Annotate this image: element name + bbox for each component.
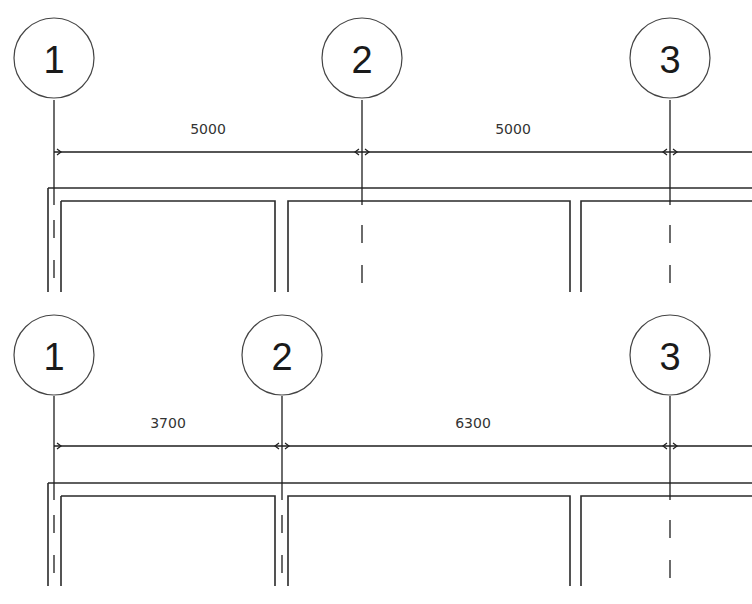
- dimension-value[interactable]: 5000: [190, 121, 226, 137]
- grid-bubble-3[interactable]: 3: [630, 315, 710, 395]
- grid-label: 2: [271, 336, 292, 378]
- dimension-value[interactable]: 5000: [495, 121, 531, 137]
- wall-room-2: [288, 496, 570, 586]
- grid-bubble-1[interactable]: 1: [14, 315, 94, 395]
- walls: [48, 483, 752, 586]
- grid-label: 1: [43, 336, 64, 378]
- grid-bubble-2[interactable]: 2: [322, 18, 402, 98]
- wall-room-3: [581, 496, 752, 586]
- wall-room-2: [288, 201, 570, 292]
- panel-top: 5000 5000 1 2 3: [14, 18, 752, 292]
- grid-lines: [54, 100, 670, 292]
- dimension-value[interactable]: 6300: [455, 415, 491, 431]
- grid-diagram-canvas: 5000 5000 1 2 3: [0, 0, 752, 604]
- wall-room-1: [61, 496, 275, 586]
- dimension-string[interactable]: 3700 6300: [54, 415, 752, 449]
- wall-room-3: [581, 201, 752, 292]
- grid-label: 3: [659, 39, 680, 81]
- grid-bubble-3[interactable]: 3: [630, 18, 710, 98]
- wall-room-1: [61, 201, 275, 292]
- grid-label: 1: [43, 39, 64, 81]
- dimension-string[interactable]: 5000 5000: [54, 121, 752, 155]
- grid-label: 2: [351, 39, 372, 81]
- grid-lines: [54, 396, 670, 586]
- grid-bubble-2[interactable]: 2: [242, 315, 322, 395]
- walls: [48, 188, 752, 292]
- panel-bottom: 3700 6300 1 2 3: [14, 315, 752, 586]
- dimension-value[interactable]: 3700: [150, 415, 186, 431]
- grid-bubble-1[interactable]: 1: [14, 18, 94, 98]
- grid-label: 3: [659, 336, 680, 378]
